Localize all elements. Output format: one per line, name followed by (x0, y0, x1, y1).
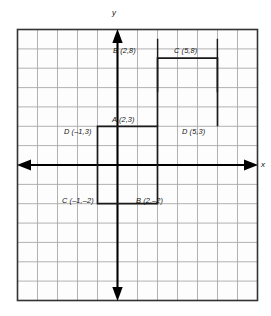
point-label-b-2-8: B (2,8) (113, 47, 136, 54)
point-label-c-5-8: C (5,8) (174, 47, 197, 54)
point-label-a-2-3: A (2,3) (112, 116, 135, 123)
x-axis-label: x (261, 161, 265, 169)
coordinate-plane-figure: y x B (2,8) C (5,8) A (2,3) D (–1,3) D (… (0, 0, 271, 316)
y-axis-label: y (112, 9, 116, 17)
point-label-b-2-neg2: B (2,–2) (136, 197, 163, 204)
point-label-d-neg1-3: D (–1,3) (64, 128, 92, 135)
point-label-d-5-3: D (5,3) (182, 128, 205, 135)
point-label-c-neg1-neg2: C (–1,–2) (62, 197, 94, 204)
